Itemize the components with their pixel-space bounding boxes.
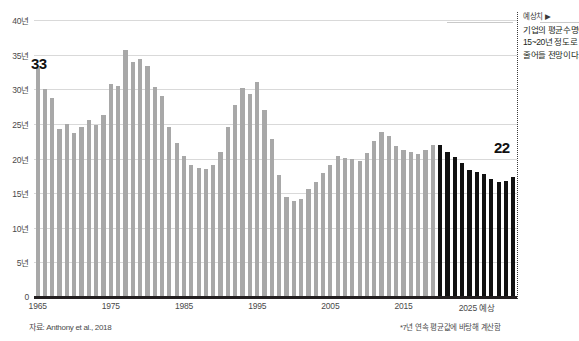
- bar: [204, 169, 208, 297]
- y-axis-tick-label: 15년: [12, 187, 29, 199]
- bar: [218, 152, 222, 297]
- x-axis-line: [34, 296, 517, 299]
- bar: [284, 197, 288, 297]
- bar: [79, 127, 83, 297]
- y-axis-tick-label: 5년: [17, 256, 29, 268]
- bar: [306, 189, 310, 297]
- bar: [197, 168, 201, 297]
- bar: [123, 50, 127, 297]
- bar: [167, 127, 171, 297]
- bar-series-container: [34, 20, 517, 297]
- bar: [365, 153, 369, 297]
- x-axis-tick-label: 2005: [321, 301, 339, 311]
- bar: [94, 125, 98, 297]
- method-note: *7년 연속 평균값에 바탕해 계산함: [400, 321, 501, 332]
- y-axis-tick-label: 30년: [12, 83, 29, 95]
- bar: [504, 181, 508, 297]
- bar: [153, 87, 157, 297]
- bar: [57, 129, 61, 297]
- x-axis-tick-label: 1985: [175, 301, 193, 311]
- x-axis-tick-label: 2025 예상: [459, 301, 495, 313]
- bar: [145, 66, 149, 297]
- bar: [467, 170, 471, 297]
- annotation-leader-line: [447, 22, 513, 23]
- bar: [321, 173, 325, 297]
- bar: [116, 86, 120, 297]
- bar: [182, 156, 186, 297]
- y-axis-tick-label: 35년: [12, 49, 29, 61]
- bar-chart: 40년35년30년25년20년15년10년5년0 196519751985199…: [0, 0, 579, 341]
- start-value-callout: 33: [31, 55, 47, 72]
- bar: [379, 132, 383, 298]
- bar: [87, 120, 91, 297]
- bar: [409, 152, 413, 297]
- bar: [489, 179, 493, 297]
- bar: [211, 165, 215, 297]
- bar: [438, 145, 442, 297]
- bar: [65, 124, 69, 297]
- bar: [394, 146, 398, 297]
- x-axis-tick-label: 1995: [248, 301, 266, 311]
- annotation-line-3: 줄어들 전망이다.: [523, 49, 579, 61]
- bar: [336, 156, 340, 297]
- bar: [277, 175, 281, 297]
- forecast-value-callout: 22: [494, 139, 510, 156]
- bar: [72, 133, 76, 297]
- bar: [292, 201, 296, 297]
- bar: [226, 127, 230, 297]
- bar: [401, 150, 405, 297]
- bar: [328, 165, 332, 297]
- bar: [36, 68, 40, 297]
- x-axis-labels: 1965197519851995200520152025 예상: [0, 301, 579, 317]
- bar: [248, 94, 252, 297]
- y-axis-labels: 40년35년30년25년20년15년10년5년0: [0, 20, 32, 297]
- bar: [482, 174, 486, 297]
- forecast-annotation: 예상치 ▶ 기업의 평균수명이 15~20년 정도로 줄어들 전망이다.: [523, 10, 579, 61]
- bar: [270, 139, 274, 297]
- plot-area: [34, 20, 517, 297]
- bar: [314, 182, 318, 297]
- bar: [233, 105, 237, 298]
- bar: [240, 88, 244, 297]
- bar: [43, 89, 47, 297]
- bar: [350, 159, 354, 297]
- bar: [255, 82, 259, 297]
- bar: [299, 199, 303, 297]
- bar: [511, 177, 515, 297]
- bar: [262, 110, 266, 297]
- bar: [453, 157, 457, 297]
- bar: [50, 98, 54, 297]
- bar: [189, 165, 193, 297]
- y-axis-tick-label: 20년: [12, 153, 29, 165]
- annotation-line-1: 기업의 평균수명이: [523, 24, 579, 36]
- annotation-header: 예상치 ▶: [523, 10, 579, 21]
- y-axis-tick-label: 10년: [12, 222, 29, 234]
- bar: [445, 152, 449, 297]
- bar: [497, 182, 501, 297]
- bar: [460, 163, 464, 297]
- bar: [372, 141, 376, 298]
- bar: [358, 161, 362, 297]
- forecast-divider: [517, 12, 518, 299]
- bar: [101, 115, 105, 297]
- x-axis-tick-label: 1975: [102, 301, 120, 311]
- bar: [416, 154, 420, 297]
- annotation-line-2: 15~20년 정도로: [523, 36, 579, 48]
- bar: [475, 172, 479, 297]
- source-note: 자료: Anthony et al., 2018: [29, 321, 111, 332]
- bar: [431, 145, 435, 297]
- y-axis-tick-label: 25년: [12, 118, 29, 130]
- bar: [343, 158, 347, 297]
- bar: [131, 62, 135, 297]
- bar: [160, 96, 164, 297]
- y-axis-tick-label: 40년: [12, 14, 29, 26]
- x-axis-tick-label: 1965: [29, 301, 47, 311]
- bar: [109, 84, 113, 297]
- bar: [175, 143, 179, 297]
- bar: [423, 150, 427, 298]
- bar: [387, 136, 391, 297]
- bar: [138, 59, 142, 297]
- x-axis-tick-label: 2015: [395, 301, 413, 311]
